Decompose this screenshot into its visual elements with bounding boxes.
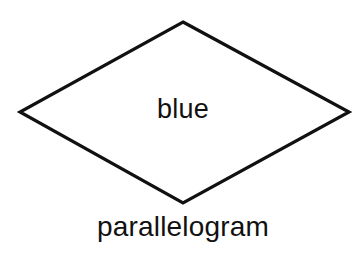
shape-inner-label: blue: [0, 96, 360, 123]
shape-caption: parallelogram: [0, 213, 360, 241]
